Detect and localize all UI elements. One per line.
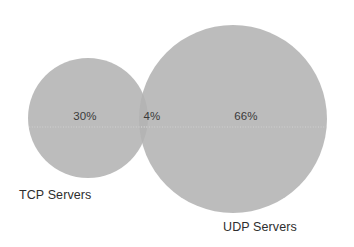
- venn-label-udp: UDP Servers: [223, 220, 297, 234]
- venn-diagram: 30% 4% 66% TCP Servers UDP Servers: [0, 0, 354, 247]
- venn-label-tcp: TCP Servers: [19, 188, 91, 202]
- venn-diagram-canvas: [0, 0, 354, 247]
- venn-value-tcp-only: 30%: [73, 110, 96, 122]
- venn-value-udp-only: 66%: [234, 110, 257, 122]
- venn-circle-udp[interactable]: [139, 25, 327, 213]
- venn-value-intersection: 4%: [144, 110, 161, 122]
